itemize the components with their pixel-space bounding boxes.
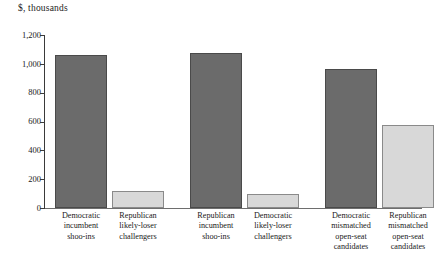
category-label-0-line-0: Democratic <box>52 211 110 221</box>
category-label-5: Republicanmismatchedopen-seatcandidates <box>379 211 437 253</box>
category-label-4-line-3: candidates <box>322 242 380 252</box>
bar-1 <box>112 191 164 208</box>
category-label-3-line-2: challengers <box>244 232 302 242</box>
category-label-0: Democraticincumbentshoo-ins <box>52 211 110 242</box>
y-tick-mark-1200 <box>40 35 45 36</box>
category-label-2-line-1: incumbent <box>187 221 245 231</box>
category-label-2: Republicanincumbentshoo-ins <box>187 211 245 242</box>
category-label-4-line-1: mismatched <box>322 221 380 231</box>
category-label-1: Republicanlikely-loserchallengers <box>109 211 167 242</box>
y-tick-label-1000: 1,000 <box>22 60 41 69</box>
category-label-1-line-0: Republican <box>109 211 167 221</box>
y-tick-mark-600 <box>40 122 45 123</box>
x-axis-line <box>44 208 422 209</box>
bar-2 <box>190 53 242 208</box>
bar-4 <box>325 69 377 208</box>
category-label-2-line-2: shoo-ins <box>187 232 245 242</box>
y-tick-mark-200 <box>40 179 45 180</box>
category-label-1-line-2: challengers <box>109 232 167 242</box>
bar-5 <box>382 125 434 208</box>
category-label-3-line-1: likely-loser <box>244 221 302 231</box>
bars-container <box>44 35 422 208</box>
category-label-0-line-1: incumbent <box>52 221 110 231</box>
category-label-4: Democraticmismatchedopen-seatcandidates <box>322 211 380 253</box>
category-label-2-line-0: Republican <box>187 211 245 221</box>
y-tick-label-1200: 1,200 <box>22 31 41 40</box>
bar-3 <box>247 194 299 208</box>
x-axis-category-labels: Democraticincumbentshoo-insRepublicanlik… <box>44 211 422 273</box>
y-axis-tick-labels: 02004006008001,0001,200 <box>0 35 41 208</box>
bar-0 <box>55 55 107 208</box>
category-label-1-line-1: likely-loser <box>109 221 167 231</box>
plot-area <box>44 35 422 208</box>
category-label-5-line-3: candidates <box>379 242 437 252</box>
category-label-3: Democraticlikely-loserchallengers <box>244 211 302 242</box>
category-label-3-line-0: Democratic <box>244 211 302 221</box>
y-tick-mark-1000 <box>40 64 45 65</box>
category-label-5-line-1: mismatched <box>379 221 437 231</box>
y-tick-mark-800 <box>40 93 45 94</box>
category-label-5-line-0: Republican <box>379 211 437 221</box>
y-tick-mark-400 <box>40 150 45 151</box>
category-label-0-line-2: shoo-ins <box>52 232 110 242</box>
category-label-5-line-2: open-seat <box>379 232 437 242</box>
chart-title: $, thousands <box>18 3 68 13</box>
y-tick-mark-0 <box>40 208 45 209</box>
category-label-4-line-2: open-seat <box>322 232 380 242</box>
category-label-4-line-0: Democratic <box>322 211 380 221</box>
